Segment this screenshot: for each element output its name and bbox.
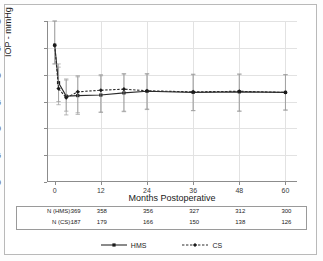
- sample-size-value: 358: [85, 208, 119, 214]
- y-tick-label-5: 5: [0, 152, 1, 159]
- y-tick-mark-0: [44, 182, 47, 183]
- sample-size-value: 179: [85, 219, 119, 225]
- y-tick-label-0: 0: [0, 179, 1, 186]
- x-tick-label-48: 48: [224, 187, 254, 194]
- plot-area: 051015202530 01224364860: [47, 21, 297, 182]
- solid-line-icon: [101, 241, 127, 249]
- dashed-line-icon: [182, 241, 208, 249]
- x-tick-label-60: 60: [270, 187, 300, 194]
- y-tick-label-10: 10: [0, 125, 1, 132]
- sample-size-value: 126: [269, 219, 303, 225]
- x-tick-label-36: 36: [178, 187, 208, 194]
- sample-size-value: 166: [131, 219, 165, 225]
- sample-size-row: N (HMS):369358356327312300: [17, 208, 306, 219]
- x-axis-title: Months Postoperative: [47, 193, 297, 203]
- x-tick-mark-0: [55, 182, 56, 185]
- sample-size-row: N (CS):187179166150138126: [17, 219, 306, 230]
- chart-frame: IOP - mmHg Months Postoperative 05101520…: [4, 4, 317, 255]
- series-hms: [52, 21, 287, 114]
- x-tick-label-0: 0: [40, 187, 70, 194]
- chart-legend: HMSCS: [16, 237, 307, 253]
- y-tick-label-30: 30: [0, 18, 1, 25]
- y-axis-title: IOP - mmHg: [3, 7, 13, 57]
- y-tick-label-20: 20: [0, 71, 1, 78]
- legend-label: CS: [212, 242, 222, 249]
- x-tick-mark-48: [239, 182, 240, 185]
- x-tick-mark-36: [193, 182, 194, 185]
- sample-size-value: 356: [131, 208, 165, 214]
- sample-size-value: 327: [177, 208, 211, 214]
- y-tick-label-25: 25: [0, 44, 1, 51]
- x-tick-label-24: 24: [132, 187, 162, 194]
- series-cs: [52, 21, 287, 115]
- sample-size-value: 300: [269, 208, 303, 214]
- x-tick-label-12: 12: [86, 187, 116, 194]
- sample-size-value: 150: [177, 219, 211, 225]
- legend-item-hms[interactable]: HMS: [101, 241, 147, 249]
- legend-item-cs[interactable]: CS: [182, 241, 222, 249]
- x-tick-mark-60: [285, 182, 286, 185]
- x-tick-mark-12: [101, 182, 102, 185]
- y-tick-label-15: 15: [0, 98, 1, 105]
- legend-label: HMS: [131, 242, 147, 249]
- sample-size-value: 138: [223, 219, 257, 225]
- data-series-layer: [47, 21, 297, 182]
- sample-size-table: N (HMS):369358356327312300N (CS):1871791…: [16, 206, 307, 230]
- sample-size-value: 312: [223, 208, 257, 214]
- x-tick-mark-24: [147, 182, 148, 185]
